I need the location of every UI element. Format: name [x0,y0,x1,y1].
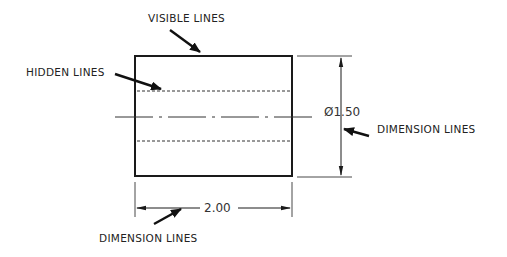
visible-lines-leader-arrow [170,30,200,52]
dimension-lines-right-leader-arrow [344,129,369,136]
diameter-dimension-text: Ø1.50 [324,105,360,119]
hidden-lines-label: HIDDEN LINES [26,66,105,78]
dimension-lines-label-bottom: DIMENSION LINES [99,232,198,244]
hidden-lines-leader-arrow [115,74,161,89]
drawing-canvas: Ø1.50 2.00 VISIBLE LINES HIDDEN LINES DI… [0,0,507,257]
dimension-lines-label-right: DIMENSION LINES [377,123,476,135]
dimension-lines-bottom-leader-arrow [154,209,181,224]
visible-lines-label: VISIBLE LINES [148,12,225,24]
length-dimension-text: 2.00 [204,201,231,215]
visible-outline [135,56,292,176]
